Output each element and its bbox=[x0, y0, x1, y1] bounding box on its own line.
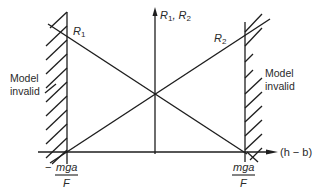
left-model-invalid-label-line1: Model bbox=[10, 72, 39, 84]
right-model-invalid-label-line1: Model bbox=[265, 67, 294, 79]
right-model-invalid-label-line2: invalid bbox=[265, 80, 295, 92]
left-model-invalid-label-line2: invalid bbox=[10, 85, 40, 97]
horizontal-axis-arrowhead-icon bbox=[266, 150, 278, 155]
right-tick-label: mga F bbox=[232, 161, 255, 189]
left-tick-label: − mga F bbox=[45, 161, 78, 189]
vertical-axis-arrowhead-icon bbox=[153, 7, 158, 16]
vertical-axis bbox=[153, 7, 158, 154]
svg-text:F: F bbox=[63, 177, 71, 189]
svg-text:−: − bbox=[45, 161, 51, 173]
force-diagram: R1 R2 R1, R2 (h − b) Model invalid Model… bbox=[0, 0, 322, 196]
svg-text:mga: mga bbox=[233, 161, 254, 173]
r1-label: R1 bbox=[73, 25, 86, 39]
r2-label: R2 bbox=[214, 32, 227, 46]
svg-text:F: F bbox=[240, 177, 248, 189]
r2-line bbox=[50, 19, 270, 163]
svg-text:mga: mga bbox=[56, 161, 77, 173]
right-invalid-boundary bbox=[245, 14, 262, 162]
vertical-axis-label: R1, R2 bbox=[160, 9, 191, 23]
horizontal-axis-label: (h − b) bbox=[280, 146, 312, 158]
